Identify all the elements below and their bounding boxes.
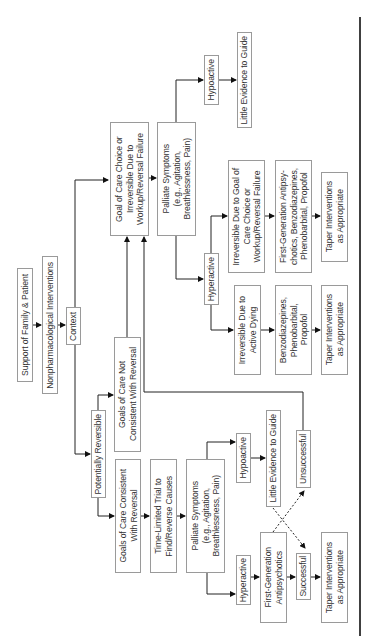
node-little-evidence-top: Little Evidence to Guide [237, 32, 252, 128]
node-time-limited-trial: Time-Limited Trial to Find/Reverse Cause… [150, 459, 177, 573]
node-hypoactive-top: Hypoactive [204, 55, 219, 105]
node-first-generation-bottom: First-Generation Antipsychotics [260, 532, 287, 623]
node-taper-mid: Taper Interventions as Appropriate [321, 172, 348, 262]
node-irreversible-goal-choice: Irreversible Due to Goal of Care Choice … [228, 160, 265, 273]
node-hypoactive-bottom: Hypoactive [236, 433, 251, 483]
node-palliate-symptoms-bottom: Palliate Symptoms (e.g., Agitation, Brea… [186, 459, 225, 573]
node-taper-dying: Taper Interventions as Appropriate [321, 285, 348, 375]
node-goals-not-consistent: Goals of Care Not Consistent With Revers… [114, 337, 141, 452]
node-goals-consistent: Goals of Care Consistent With Reversal [115, 459, 141, 573]
node-context: Context [66, 307, 81, 345]
node-taper-bottom: Taper Interventions as Appropriate [321, 532, 348, 623]
node-palliate-symptoms-top: Palliate Symptoms (e.g., Agitation, Brea… [157, 122, 196, 236]
node-little-evidence-bottom: Little Evidence to Guide [266, 410, 281, 507]
node-potentially-reversible: Potentially Reversible [91, 410, 106, 498]
node-irreversible-active-dying: Irreversible Due to Active Dying [234, 285, 261, 375]
node-goal-of-care-choice: Goal of Care Choice or Irreversible Due … [110, 122, 149, 236]
node-unsuccessful: Unsuccessful [296, 430, 311, 488]
node-benzodiazepines: Benzodiazepines, Phenobarbital, Propofol [275, 285, 312, 375]
node-successful: Successful [296, 553, 311, 600]
node-nonpharmacological-interventions: Nonpharmacological Interventions [42, 256, 58, 394]
node-first-generation-mid: First-Generation Antipsy- chotics, Benzo… [275, 160, 312, 273]
node-hyperactive-bottom: Hyperactive [236, 555, 251, 605]
node-support-family-patient: Support of Family & Patient [17, 268, 33, 382]
node-hyperactive-mid: Hyperactive [204, 253, 219, 305]
